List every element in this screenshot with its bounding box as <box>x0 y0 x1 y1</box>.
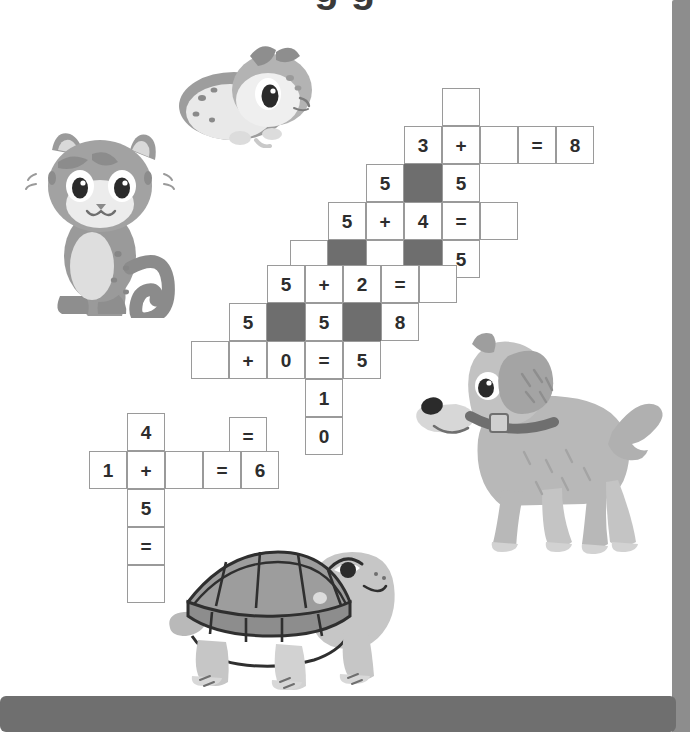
cell-r6c1 <box>267 303 305 341</box>
cell-l1c2[interactable] <box>165 451 203 489</box>
cell-r5c4[interactable] <box>419 265 457 303</box>
cell-r3c4[interactable] <box>480 202 518 240</box>
cell-l3c0[interactable]: = <box>127 527 165 565</box>
cell-r3c1[interactable]: + <box>366 202 404 240</box>
cell-r7c4[interactable]: 5 <box>343 341 381 379</box>
cell-r0c0[interactable] <box>442 88 480 126</box>
cell-r3c3[interactable]: = <box>442 202 480 240</box>
cell-r5c2[interactable]: 2 <box>343 265 381 303</box>
page-title: g g <box>0 0 690 12</box>
cell-r1c2[interactable] <box>480 126 518 164</box>
cell-r7c0[interactable] <box>191 341 229 379</box>
cell-r3c0[interactable]: 5 <box>328 202 366 240</box>
cell-r7c1[interactable]: + <box>229 341 267 379</box>
cell-r6c3 <box>343 303 381 341</box>
worksheet-page: g g <box>0 0 690 732</box>
cell-r7c2[interactable]: 0 <box>267 341 305 379</box>
page-right-edge-strip <box>672 0 690 732</box>
cell-r9c0[interactable]: = <box>229 417 267 455</box>
page-bottom-bar <box>0 696 676 732</box>
cell-l0c0[interactable]: 4 <box>127 413 165 451</box>
cell-r7c3[interactable]: = <box>305 341 343 379</box>
cell-r6c4[interactable]: 8 <box>381 303 419 341</box>
cell-l1c4[interactable]: 6 <box>241 451 279 489</box>
cell-l2c0[interactable]: 5 <box>127 489 165 527</box>
cell-r1c0[interactable]: 3 <box>404 126 442 164</box>
cell-l1c1[interactable]: + <box>127 451 165 489</box>
cell-r2c1 <box>404 164 442 202</box>
cell-r8c0[interactable]: 1 <box>305 379 343 417</box>
cell-r3c2[interactable]: 4 <box>404 202 442 240</box>
cell-r5c0[interactable]: 5 <box>267 265 305 303</box>
cell-l1c0[interactable]: 1 <box>89 451 127 489</box>
cell-r6c0[interactable]: 5 <box>229 303 267 341</box>
cell-r6c2[interactable]: 5 <box>305 303 343 341</box>
cell-r1c3[interactable]: = <box>518 126 556 164</box>
cell-r2c2[interactable]: 5 <box>442 164 480 202</box>
hamster-illustration <box>172 28 322 148</box>
cat-illustration <box>22 128 187 318</box>
cell-r9c1[interactable]: 0 <box>305 417 343 455</box>
cell-r5c3[interactable]: = <box>381 265 419 303</box>
cell-l4c0[interactable] <box>127 565 165 603</box>
cell-r2c0[interactable]: 5 <box>366 164 404 202</box>
cell-l1c3[interactable]: = <box>203 451 241 489</box>
cell-r5c1[interactable]: + <box>305 265 343 303</box>
turtle-illustration <box>168 540 403 702</box>
cell-r1c1[interactable]: + <box>442 126 480 164</box>
dog-illustration <box>412 330 670 560</box>
cell-r1c4[interactable]: 8 <box>556 126 594 164</box>
